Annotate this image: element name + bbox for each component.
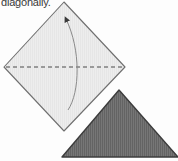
origami-diagram	[0, 0, 178, 161]
figure-page: diagonally.	[0, 0, 178, 161]
